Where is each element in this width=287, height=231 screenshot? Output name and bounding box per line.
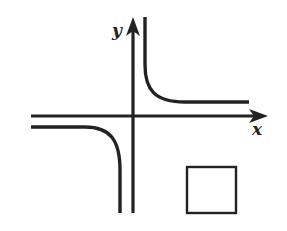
upper-right-branch [145, 17, 249, 102]
function-graph: y x [0, 0, 287, 231]
x-axis-label: x [251, 119, 263, 139]
answer-box [187, 167, 236, 213]
x-axis [31, 109, 268, 123]
lower-left-branch [31, 127, 120, 213]
y-axis-label: y [111, 20, 123, 40]
